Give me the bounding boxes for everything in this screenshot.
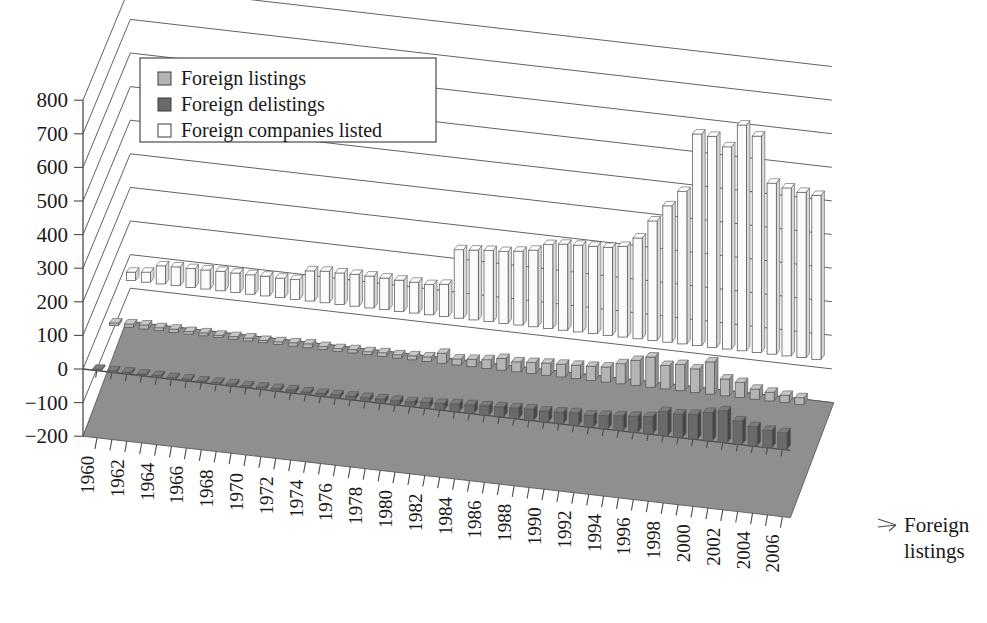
bar-1979 <box>410 282 419 313</box>
bar-1966 <box>199 333 208 336</box>
bar-1982 <box>420 402 429 408</box>
x-tick-1997 <box>646 501 648 512</box>
y-tick-label-100: 100 <box>37 323 69 347</box>
bar-1964 <box>186 269 195 288</box>
bar-1991 <box>554 412 563 424</box>
bar-side-1980 <box>434 280 437 315</box>
y-tick-label-0: 0 <box>58 357 69 381</box>
x-tick-label-1980: 1980 <box>375 490 396 528</box>
bar-2003 <box>733 421 742 445</box>
bar-1974 <box>335 273 344 305</box>
bar-1982 <box>454 250 463 319</box>
legend-label-foreign-delistings: Foreign delistings <box>181 93 325 116</box>
bar-side-1976 <box>374 272 377 308</box>
bar-1991 <box>588 246 597 333</box>
bar-side-1996 <box>672 201 675 342</box>
x-tick-label-1960: 1960 <box>77 456 98 494</box>
bar-1960 <box>109 323 118 326</box>
x-tick-label-1962: 1962 <box>107 459 128 497</box>
bar-1993 <box>601 367 610 382</box>
legend-label-foreign-listings: Foreign listings <box>181 67 306 90</box>
bar-side-2004 <box>791 184 794 356</box>
x-tick-label-1972: 1972 <box>256 476 277 514</box>
bar-2005 <box>763 430 772 447</box>
bar-side-1982 <box>463 245 466 318</box>
foreign-listings-3d-column-chart: 8007006005004003002001000−100−200 196019… <box>0 0 987 623</box>
bar-1992 <box>586 366 595 380</box>
bar-1971 <box>290 280 299 300</box>
y-tick-label-700: 700 <box>37 122 69 146</box>
depth-axis-arrow-icon <box>878 519 896 531</box>
x-tick-2000 <box>691 506 693 517</box>
bar-side-1990 <box>583 241 586 332</box>
x-tick-1984 <box>453 479 455 490</box>
x-tick-1989 <box>527 488 529 499</box>
bar-2006 <box>778 433 787 450</box>
bar-1989 <box>559 244 568 330</box>
bar-1970 <box>275 278 284 297</box>
bar-1996 <box>629 416 638 432</box>
bar-1984 <box>484 250 493 321</box>
y-tick-label-800: 800 <box>37 88 69 112</box>
bar-1965 <box>201 270 210 289</box>
legend-swatch-foreign-delistings <box>158 98 171 111</box>
bar-2002 <box>752 136 761 352</box>
bar-1997 <box>644 417 653 434</box>
gridline-connector-400 <box>83 120 130 234</box>
x-tick-1960 <box>95 438 97 449</box>
bar-1992 <box>603 247 612 335</box>
bar-1979 <box>393 355 402 358</box>
x-tick-label-1994: 1994 <box>584 514 605 553</box>
bar-2000 <box>688 414 697 439</box>
x-tick-1979 <box>378 470 380 481</box>
bar-side-1973 <box>329 267 332 303</box>
legend-swatch-foreign-listings <box>158 72 171 85</box>
bar-side-2002 <box>761 132 764 353</box>
gridline-connector-300 <box>83 154 130 268</box>
x-tick-1981 <box>408 474 410 485</box>
gridline-connector-700 <box>83 19 130 133</box>
x-tick-label-1974: 1974 <box>286 479 307 518</box>
bar-1968 <box>212 382 221 384</box>
bar-1994 <box>616 364 625 384</box>
bar-1996 <box>646 357 655 387</box>
x-tick-label-1996: 1996 <box>613 518 634 556</box>
bar-2001 <box>703 412 712 441</box>
x-tick-2006 <box>780 517 782 528</box>
bar-1968 <box>229 337 238 340</box>
bar-2006 <box>795 398 804 405</box>
x-tick-1996 <box>631 500 633 511</box>
bar-side-1977 <box>389 274 392 310</box>
bar-1977 <box>363 352 372 355</box>
bar-1968 <box>246 275 255 294</box>
bar-1998 <box>676 364 685 390</box>
bar-1965 <box>184 331 193 334</box>
depth-axis-label: Foreignlistings <box>878 513 970 563</box>
bar-1961 <box>141 272 150 282</box>
bar-1971 <box>273 342 282 345</box>
x-tick-label-1986: 1986 <box>464 500 485 538</box>
y-tick-label-500: 500 <box>37 189 69 213</box>
bar-2000 <box>705 362 714 394</box>
x-tick-1964 <box>155 445 157 456</box>
bar-side-1994 <box>642 234 645 339</box>
x-tick-label-2004: 2004 <box>733 531 754 570</box>
bar-1986 <box>497 358 506 370</box>
x-tick-1995 <box>617 498 619 509</box>
bar-1985 <box>482 360 491 369</box>
legend-swatch-foreign-companies-listed <box>158 124 171 137</box>
bar-1969 <box>227 384 236 386</box>
x-tick-1994 <box>602 496 604 507</box>
bar-1994 <box>599 415 608 428</box>
bar-side-1997 <box>687 187 690 344</box>
y-tick-label-600: 600 <box>37 155 69 179</box>
bar-1996 <box>663 206 672 342</box>
bar-1967 <box>231 273 240 292</box>
bar-1990 <box>556 364 565 377</box>
bar-side-2001 <box>713 408 716 441</box>
bar-1973 <box>320 271 329 303</box>
x-tick-2001 <box>706 508 708 519</box>
bar-1963 <box>171 267 180 286</box>
bar-1994 <box>633 238 642 339</box>
x-tick-1965 <box>170 446 172 457</box>
